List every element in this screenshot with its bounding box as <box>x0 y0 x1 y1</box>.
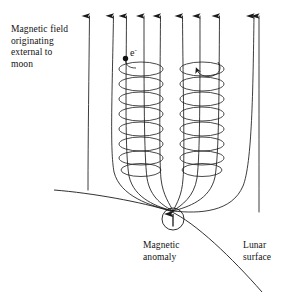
field-line-2 <box>126 16 173 211</box>
field-line-4 <box>160 16 173 211</box>
gyration-rotation-arrow <box>197 62 220 76</box>
field-line-1 <box>112 16 173 211</box>
electron-tail <box>126 61 137 69</box>
electron-charge-sign: - <box>135 46 137 54</box>
label-external-field: Magnetic field originating external to m… <box>11 24 97 70</box>
diagram-canvas: Magnetic field originating external to m… <box>0 0 296 300</box>
electron-marker <box>123 56 128 61</box>
helix-left-electron-gyration <box>119 62 163 177</box>
field-line-5 <box>173 16 184 211</box>
field-lines-group <box>88 16 259 212</box>
label-electron: e- <box>130 47 137 59</box>
label-lunar-surface: Lunar surface <box>243 240 296 263</box>
field-line-6 <box>173 16 200 211</box>
field-line-3 <box>144 16 173 211</box>
helix-right-electron-gyration <box>180 62 224 177</box>
label-magnetic-anomaly: Magnetic anomaly <box>143 240 213 263</box>
